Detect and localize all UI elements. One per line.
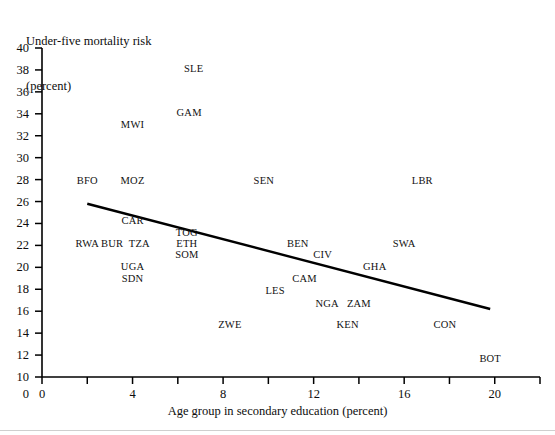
data-point-label: NGA: [316, 298, 339, 309]
y-axis-tick-label: 36: [3, 86, 29, 99]
x-axis-tick-label: 8: [208, 388, 238, 401]
y-axis-tick-label: 30: [3, 152, 29, 165]
data-point-label: CON: [434, 320, 457, 331]
data-point-label: ZWE: [218, 320, 241, 331]
data-point-label: BEN: [287, 239, 309, 250]
data-point-label: SWA: [393, 239, 416, 250]
y-axis-tick-label: 38: [3, 64, 29, 77]
regression-trend-line: [87, 204, 490, 309]
x-axis-origin-label: 0: [3, 388, 29, 401]
y-axis-tick-label: 14: [3, 327, 29, 340]
y-axis-tick-label: 28: [3, 174, 29, 187]
x-axis-ticks: [42, 377, 540, 384]
data-point-label: CAR: [121, 216, 143, 227]
data-point-label: BUR: [101, 239, 123, 250]
y-axis-tick-label: 16: [3, 305, 29, 318]
data-point-label: MOZ: [121, 175, 145, 186]
y-axis-tick-label: 32: [3, 130, 29, 143]
data-point-label: KEN: [336, 320, 358, 331]
data-point-label: SOM: [175, 250, 198, 261]
data-point-label: BOT: [479, 354, 501, 365]
y-axis-tick-label: 18: [3, 283, 29, 296]
x-axis-tick-label: 0: [27, 388, 57, 401]
x-axis-title: Age group in secondary education (percen…: [0, 404, 555, 419]
x-axis-tick-label: 12: [299, 388, 329, 401]
scatter-chart: Under-five mortality risk (percent) 1012…: [0, 0, 555, 435]
y-axis-tick-label: 34: [3, 108, 29, 121]
trend-line: [87, 204, 490, 309]
data-point-label: GHA: [363, 262, 386, 273]
y-axis-tick-label: 12: [3, 349, 29, 362]
x-axis-tick-label: 20: [480, 388, 510, 401]
data-point-label: SLE: [184, 64, 203, 75]
data-point-label: TOG: [176, 228, 198, 239]
data-point-label: LES: [266, 286, 285, 297]
data-point-label: GAM: [177, 107, 202, 118]
x-axis-tick-label: 16: [389, 388, 419, 401]
data-point-label: MWI: [121, 120, 144, 131]
data-point-label: SDN: [122, 274, 144, 285]
data-point-label: CIV: [313, 250, 332, 261]
y-axis-tick-label: 10: [3, 371, 29, 384]
data-point-label: SEN: [254, 175, 274, 186]
y-axis-tick-label: 24: [3, 217, 29, 230]
y-axis-ticks: [35, 48, 42, 377]
plot-canvas: [0, 0, 555, 435]
y-axis-tick-label: 22: [3, 239, 29, 252]
y-axis-tick-label: 40: [3, 42, 29, 55]
data-point-label: ZAM: [347, 298, 371, 309]
x-axis-tick-label: 4: [118, 388, 148, 401]
data-point-label: UGA: [121, 262, 144, 273]
data-point-label: ETH: [176, 239, 197, 250]
y-axis-tick-label: 26: [3, 196, 29, 209]
data-point-label: BFO: [77, 175, 98, 186]
data-point-label: CAM: [292, 274, 317, 285]
data-point-label: TZA: [129, 239, 150, 250]
data-point-label: LBR: [412, 175, 433, 186]
page-bottom-rule: [0, 430, 555, 431]
y-axis-tick-label: 20: [3, 261, 29, 274]
data-point-label: RWA: [76, 239, 99, 250]
